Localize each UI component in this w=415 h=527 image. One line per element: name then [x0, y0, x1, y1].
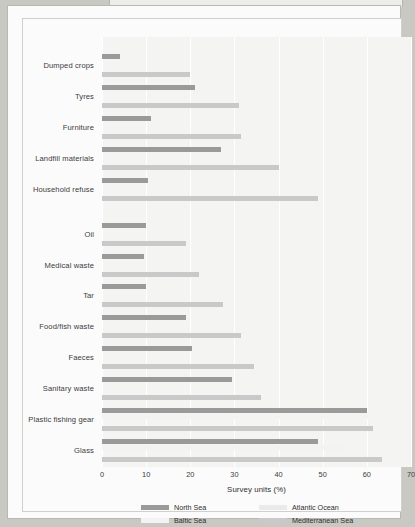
category-label: Medical waste	[45, 261, 94, 270]
bar	[102, 284, 146, 289]
bar-group	[102, 51, 411, 82]
x-tick-label: 30	[230, 470, 238, 479]
x-tick-label: 0	[100, 470, 104, 479]
legend-swatch-icon	[141, 518, 169, 523]
bar-group	[102, 220, 411, 251]
bar-group	[102, 436, 411, 467]
bar	[102, 223, 146, 228]
bar-group	[102, 144, 411, 175]
legend-label: Mediterranean Sea	[292, 516, 353, 525]
bar-group	[102, 343, 411, 374]
x-axis-title: Survey units (%)	[102, 485, 411, 494]
category-label: Furniture	[63, 123, 94, 132]
bar	[102, 302, 223, 307]
gridline-70	[411, 37, 412, 467]
category-label: Plastic fishing gear	[28, 415, 94, 424]
category-label: Oil	[84, 230, 94, 239]
bar	[102, 165, 279, 170]
category-label: Household refuse	[33, 185, 94, 194]
legend-label: Baltic Sea	[174, 516, 206, 525]
bar	[102, 196, 318, 201]
legend-label: North Sea	[174, 503, 206, 512]
bar	[102, 116, 151, 121]
bar	[102, 395, 261, 400]
bar	[102, 85, 195, 90]
bar-group	[102, 175, 411, 206]
bar	[102, 315, 186, 320]
x-tick-label: 50	[319, 470, 327, 479]
category-label: Tar	[83, 291, 94, 300]
legend-label: Atlantic Ocean	[292, 503, 339, 512]
bar	[102, 408, 367, 413]
bar	[102, 134, 241, 139]
x-tick-label: 10	[142, 470, 150, 479]
legend-swatch-icon	[141, 505, 169, 510]
category-label: Landfill materials	[35, 154, 94, 163]
bar	[102, 272, 199, 277]
bar	[102, 103, 239, 108]
bar-group	[102, 113, 411, 144]
plot-area	[102, 37, 411, 467]
legend-swatch-icon	[259, 505, 287, 510]
legend-swatch-icon	[259, 518, 287, 523]
bar	[102, 364, 254, 369]
bar	[102, 254, 144, 259]
bar	[102, 426, 373, 431]
category-label: Faeces	[68, 353, 94, 362]
bar	[102, 333, 241, 338]
chart-page: Large litter items Small litter items Du…	[0, 0, 415, 527]
bar	[102, 147, 221, 152]
bar-group	[102, 405, 411, 436]
bar	[102, 241, 186, 246]
bar	[102, 54, 120, 59]
bar	[102, 178, 148, 183]
bar-group	[102, 251, 411, 282]
page-sheet: Large litter items Small litter items Du…	[8, 6, 400, 518]
category-label: Glass	[74, 446, 94, 455]
bar	[102, 346, 192, 351]
bar	[102, 445, 347, 450]
bar-group	[102, 281, 411, 312]
bar-group	[102, 82, 411, 113]
x-axis-ticks: 010203040506070	[102, 467, 411, 483]
bar-group	[102, 374, 411, 405]
bar	[102, 377, 232, 382]
x-tick-label: 20	[186, 470, 194, 479]
bar	[102, 72, 190, 77]
category-label: Dumped crops	[43, 61, 94, 70]
x-tick-label: 70	[407, 470, 415, 479]
bar	[102, 439, 318, 444]
x-tick-label: 60	[363, 470, 371, 479]
category-label: Sanitary waste	[43, 384, 94, 393]
bar	[102, 414, 369, 419]
bar-group	[102, 312, 411, 343]
x-tick-label: 40	[274, 470, 282, 479]
chart-legend: North SeaAtlantic OceanBaltic SeaMediter…	[141, 503, 381, 527]
category-label: Food/fish waste	[39, 322, 94, 331]
bar	[102, 457, 382, 462]
category-label: Tyres	[75, 92, 94, 101]
chart-frame: Large litter items Small litter items Du…	[22, 18, 402, 512]
category-labels: Dumped cropsTyresFurnitureLandfill mater…	[23, 37, 98, 467]
